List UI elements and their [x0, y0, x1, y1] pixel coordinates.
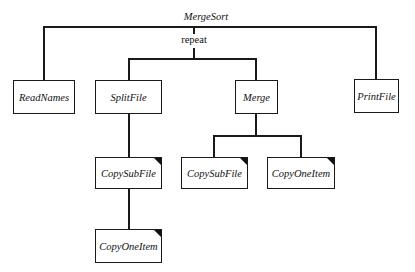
root-connector — [43, 26, 377, 28]
node-label: CopySubFile — [187, 168, 242, 179]
connector-repeat-top — [193, 26, 195, 34]
node-merge: Merge — [235, 80, 278, 114]
connector-splitfile-copysubfile — [128, 114, 130, 157]
node-label: SplitFile — [110, 92, 146, 103]
node-printfile: PrintFile — [354, 79, 399, 113]
root-label-mergesort: MergeSort — [182, 11, 231, 22]
repeat-connector — [128, 58, 257, 60]
library-marker-icon — [154, 158, 161, 165]
connector-copysubfile-copyoneitem — [128, 189, 130, 229]
node-splitfile: SplitFile — [95, 80, 162, 114]
library-marker-icon — [327, 158, 334, 165]
connector-readnames — [43, 26, 45, 80]
node-copyoneitem-2: CopyOneItem — [267, 157, 335, 189]
node-label: PrintFile — [357, 91, 396, 102]
connector-merge-copysubfile — [213, 135, 215, 157]
node-copyoneitem-1: CopyOneItem — [95, 229, 162, 263]
connector-splitfile — [128, 58, 130, 80]
node-label: CopyOneItem — [99, 241, 157, 252]
node-label: Merge — [243, 92, 270, 103]
merge-children-connector — [213, 135, 301, 137]
connector-printfile — [375, 26, 377, 79]
library-marker-icon — [154, 230, 161, 237]
node-label: CopySubFile — [101, 168, 156, 179]
node-label: CopyOneItem — [272, 168, 330, 179]
node-readnames: ReadNames — [13, 80, 75, 114]
library-marker-icon — [240, 158, 247, 165]
node-label: ReadNames — [19, 92, 69, 103]
connector-merge-down — [255, 114, 257, 136]
repeat-label: repeat — [179, 34, 209, 45]
node-copysubfile-2: CopySubFile — [181, 157, 248, 189]
node-copysubfile-1: CopySubFile — [95, 157, 162, 189]
connector-merge — [255, 58, 257, 80]
connector-merge-copyoneitem — [300, 135, 302, 157]
